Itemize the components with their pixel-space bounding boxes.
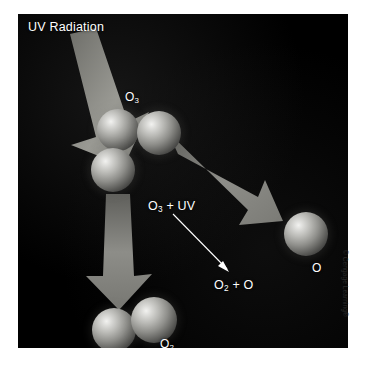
reaction-reactants-tail: + UV xyxy=(163,199,196,213)
ozone-label-base: O xyxy=(125,90,135,104)
ozone-label: O3 xyxy=(125,90,139,105)
ozone-atom-1 xyxy=(97,109,139,151)
reaction-arrow xyxy=(173,214,229,272)
ozone-atom-2 xyxy=(137,111,181,155)
reaction-products-label: O2 + O xyxy=(214,278,254,293)
reaction-reactants-base: O xyxy=(148,199,158,213)
ozone-to-oxygen-molecule-arrow xyxy=(86,194,152,310)
ozone-atom-3 xyxy=(91,148,135,192)
oxygen-molecule-label-subscript: 2 xyxy=(170,343,175,348)
reaction-reactants-label: O3 + UV xyxy=(148,199,195,214)
ozone-label-subscript: 3 xyxy=(135,96,140,105)
oxygen-atom-label: O xyxy=(312,261,322,275)
oxygen-molecule-label-base: O xyxy=(160,337,170,348)
reaction-products-tail: + O xyxy=(229,278,254,292)
reaction-products-base: O xyxy=(214,278,224,292)
oxygen-molecule-atom-1 xyxy=(92,308,136,348)
oxygen-atom-1 xyxy=(284,212,328,256)
uv-radiation-label: UV Radiation xyxy=(28,20,104,34)
illustration-panel: UV Radiation O3 O2 O O3 + UV O2 + O xyxy=(18,14,348,348)
figure-root: UV Radiation O3 O2 O O3 + UV O2 + O © Ce… xyxy=(0,0,378,367)
arrow-layer xyxy=(18,14,348,348)
oxygen-molecule-label: O2 xyxy=(160,337,174,348)
copyright-credit: © Cengage Learning® xyxy=(342,250,349,317)
